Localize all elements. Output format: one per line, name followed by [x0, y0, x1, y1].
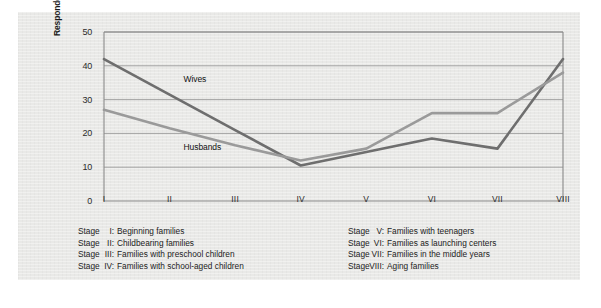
x-tick-label-v: V	[363, 194, 369, 204]
stage-legend-left-column: StageI:Beginning familiesStageII:Childbe…	[78, 226, 244, 272]
stage-numeral: VIII:	[364, 261, 384, 273]
stage-legend-row: StageII:Childbearing families	[78, 238, 244, 250]
x-tick-label-iv: IV	[296, 194, 304, 204]
stage-word: Stage	[78, 261, 94, 273]
stage-description: Families with teenagers	[387, 226, 474, 236]
x-tick-label-iii: III	[231, 194, 239, 204]
stage-numeral: V:	[364, 226, 384, 238]
stage-description: Families with preschool children	[117, 249, 235, 259]
stage-description: Families in the middle years	[387, 249, 490, 259]
stage-word: Stage	[78, 238, 94, 250]
x-tick-label-viii: VIII	[556, 194, 570, 204]
stage-word: Stage	[348, 226, 364, 238]
stage-numeral: VI:	[364, 238, 384, 250]
stage-legend-row: StageVI:Families as launching centers	[348, 238, 496, 250]
series-annotation-husbands: Husbands	[184, 142, 221, 152]
stage-legend-row: StageIV:Families with school-aged childr…	[78, 261, 244, 273]
x-tick-label-vii: VII	[492, 194, 503, 204]
stage-description: Beginning families	[117, 226, 184, 236]
stage-description: Childbearing families	[117, 238, 194, 248]
axes	[104, 32, 563, 201]
stage-legend-row: StageI:Beginning families	[78, 226, 244, 238]
stage-word: Stage	[78, 249, 94, 261]
series-annotation-wives: Wives	[184, 74, 207, 84]
stage-description: Families with school-aged children	[117, 261, 244, 271]
x-tick-label-ii: II	[167, 194, 172, 204]
stage-description: Families as launching centers	[387, 238, 496, 248]
stage-legend: StageI:Beginning familiesStageII:Childbe…	[18, 226, 580, 280]
stage-legend-row: StageV:Families with teenagers	[348, 226, 496, 238]
stage-legend-row: StageVII:Families in the middle years	[348, 249, 496, 261]
line-chart	[18, 12, 580, 242]
x-tick-label-i: I	[103, 194, 106, 204]
stage-legend-row: StageIII:Families with preschool childre…	[78, 249, 244, 261]
plot-area: Respondents indicating marriage going we…	[18, 12, 580, 242]
stage-numeral: II:	[94, 238, 114, 250]
stage-legend-right-column: StageV:Families with teenagersStageVI:Fa…	[348, 226, 496, 272]
stage-legend-row: StageVIII:Aging families	[348, 261, 496, 273]
stage-word: Stage	[348, 261, 364, 273]
figure-panel: Respondents indicating marriage going we…	[18, 12, 580, 280]
x-tick-label-vi: VI	[428, 194, 436, 204]
gridlines	[104, 32, 563, 201]
stage-numeral: I:	[94, 226, 114, 238]
stage-description: Aging families	[387, 261, 439, 271]
stage-numeral: IV:	[94, 261, 114, 273]
stage-word: Stage	[348, 249, 364, 261]
stage-numeral: III:	[94, 249, 114, 261]
stage-word: Stage	[348, 238, 364, 250]
stage-numeral: VII:	[364, 249, 384, 261]
stage-word: Stage	[78, 226, 94, 238]
data-series-group	[104, 59, 563, 165]
